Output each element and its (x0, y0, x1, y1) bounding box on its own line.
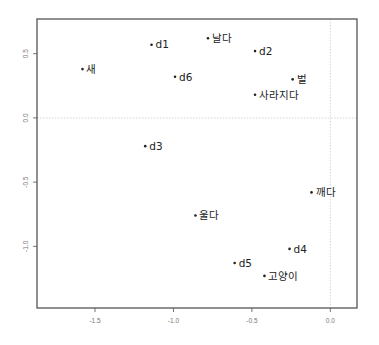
point-marker (291, 78, 294, 81)
reference-lines (37, 19, 357, 308)
point-label: 고양이 (268, 270, 298, 282)
point-label: d2 (259, 45, 272, 57)
y-tick-label: -0.5 (22, 176, 29, 188)
point-label: 날다 (212, 32, 232, 44)
data-point: 깨다 (310, 186, 335, 198)
point-marker (288, 248, 291, 251)
point-label: 울다 (199, 209, 219, 221)
data-point: 사라지다 (254, 89, 299, 101)
point-label: 사라지다 (259, 89, 299, 101)
data-point: 고양이 (263, 270, 298, 282)
data-point: d6 (174, 71, 193, 83)
data-point: 새 (81, 63, 96, 75)
point-marker (194, 214, 197, 217)
data-point: d4 (288, 243, 307, 255)
y-tick-label: 0.5 (22, 49, 29, 58)
point-marker (254, 93, 257, 96)
data-point: d2 (254, 45, 273, 57)
x-tick-label: -0.5 (246, 317, 258, 324)
point-marker (263, 275, 266, 278)
point-marker (81, 68, 84, 71)
data-point: d1 (150, 38, 169, 50)
point-marker (144, 145, 147, 148)
y-tick-label: -1.0 (22, 240, 29, 252)
point-marker (150, 43, 153, 46)
plot-frame (37, 19, 357, 308)
x-tick-label: 0.0 (326, 317, 335, 324)
data-point: d5 (233, 257, 252, 269)
point-label: d1 (156, 38, 169, 50)
x-tick-label: -1.5 (89, 317, 101, 324)
data-point: 날다 (207, 32, 232, 44)
point-label: d5 (239, 257, 252, 269)
point-label: 벌 (297, 73, 307, 85)
point-label: d3 (149, 140, 162, 152)
x-axis: -1.5-1.0-0.50.0 (89, 308, 335, 324)
data-point: d3 (144, 140, 163, 152)
point-marker (310, 191, 313, 194)
point-label: 깨다 (316, 186, 336, 198)
point-marker (174, 76, 177, 79)
y-tick-label: 0.0 (22, 113, 29, 122)
y-axis: 0.50.0-0.5-1.0 (22, 49, 37, 252)
point-label: d6 (179, 71, 193, 83)
data-point: 벌 (291, 73, 306, 85)
data-points: d1새d6날다d2벌사라지다d3울다깨다d4d5고양이 (81, 32, 335, 282)
point-marker (254, 50, 257, 53)
point-label: 새 (86, 63, 96, 75)
scatter-plot: -1.5-1.0-0.50.0 0.50.0-0.5-1.0 d1새d6날다d2… (0, 0, 379, 345)
point-label: d4 (294, 243, 308, 255)
data-point: 울다 (194, 209, 219, 221)
point-marker (233, 262, 236, 265)
point-marker (207, 37, 210, 40)
x-tick-label: -1.0 (168, 317, 180, 324)
